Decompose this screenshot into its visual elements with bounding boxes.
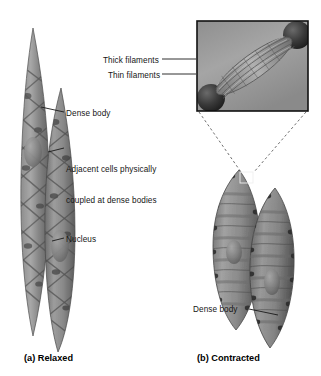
label-dense-body-contracted: Dense body	[193, 305, 238, 315]
callout-dashed-lines	[199, 112, 306, 172]
label-thick-filaments: Thick filaments	[103, 56, 159, 66]
contracted-cells-illustration	[206, 170, 307, 348]
label-adjacent-cells-line1: Adjacent cells physically	[66, 165, 157, 175]
label-nucleus: Nucleus	[66, 235, 96, 245]
nucleus-back	[24, 137, 42, 167]
label-thin-filaments: Thin filaments	[108, 71, 160, 81]
label-adjacent-cells: Adjacent cells physically coupled at den…	[66, 144, 157, 227]
label-dense-body-relaxed: Dense body	[66, 109, 111, 119]
caption-panel-a: (a) Relaxed	[24, 353, 73, 363]
figure-artwork	[0, 0, 321, 376]
nucleus-contracted-right	[264, 269, 280, 295]
label-adjacent-cells-line2: coupled at dense bodies	[66, 196, 157, 206]
smooth-muscle-figure: Thick filaments Thin filaments Dense bod…	[0, 0, 321, 376]
caption-panel-b: (b) Contracted	[197, 353, 260, 363]
nucleus-contracted-left	[226, 240, 242, 264]
filament-inset-panel	[197, 21, 311, 112]
